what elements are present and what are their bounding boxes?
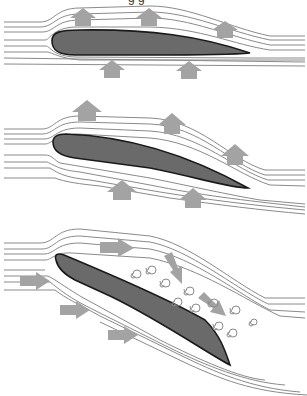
- vortex-icon: [213, 322, 223, 330]
- airfoil: [53, 134, 248, 188]
- up-arrow-icon: [176, 61, 202, 79]
- up-arrow-icon: [221, 144, 249, 165]
- panel-low-angle: [4, 6, 305, 79]
- up-arrow-icon: [72, 100, 102, 121]
- up-arrow-icon: [136, 8, 162, 26]
- panel-stall: [4, 229, 307, 395]
- up-arrow-icon: [107, 180, 137, 200]
- right-arrow-icon: [100, 238, 134, 257]
- up-arrow-icon: [99, 60, 125, 78]
- right-arrow-icon: [60, 301, 90, 319]
- vortex-icon: [227, 329, 237, 337]
- right-arrow-icon: [20, 272, 50, 290]
- diagonal-arrow-icon: [198, 292, 226, 316]
- vortex-icon: [230, 306, 240, 314]
- panel-moderate-angle: [4, 100, 305, 214]
- vortex-icon: [146, 266, 156, 274]
- vortex-icon: [184, 287, 194, 295]
- vortex-icon: [131, 270, 141, 278]
- vortex-icon: [190, 304, 200, 312]
- right-arrow-icon: [108, 326, 138, 344]
- airfoil-diagram: [0, 0, 307, 396]
- vortex-icon: [160, 279, 170, 287]
- vortex-icon: [249, 319, 257, 326]
- up-arrow-icon: [70, 8, 96, 26]
